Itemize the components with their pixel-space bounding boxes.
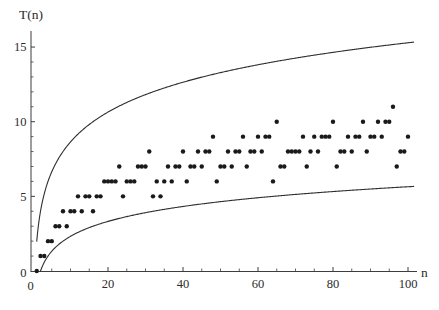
data-point bbox=[263, 134, 267, 138]
data-point bbox=[275, 120, 279, 124]
data-point bbox=[211, 134, 215, 138]
data-point bbox=[267, 134, 271, 138]
data-point bbox=[380, 134, 384, 138]
data-point bbox=[121, 194, 125, 198]
data-point bbox=[372, 134, 376, 138]
data-point bbox=[192, 164, 196, 168]
data-point bbox=[316, 149, 320, 153]
data-point bbox=[357, 134, 361, 138]
data-point bbox=[320, 134, 324, 138]
x-origin-label: 0 bbox=[27, 279, 33, 293]
data-point bbox=[188, 164, 192, 168]
data-point bbox=[91, 209, 95, 213]
data-point bbox=[95, 194, 99, 198]
data-point bbox=[166, 164, 170, 168]
data-point bbox=[248, 149, 252, 153]
data-point bbox=[376, 120, 380, 124]
data-point bbox=[398, 149, 402, 153]
data-point bbox=[222, 164, 226, 168]
data-point bbox=[162, 179, 166, 183]
data-point bbox=[170, 179, 174, 183]
data-point bbox=[226, 149, 230, 153]
data-point bbox=[278, 164, 282, 168]
y-origin-label: 0 bbox=[20, 266, 26, 280]
data-point bbox=[68, 209, 72, 213]
data-point bbox=[406, 134, 410, 138]
data-point bbox=[132, 179, 136, 183]
data-point bbox=[46, 239, 50, 243]
data-point bbox=[308, 149, 312, 153]
data-point bbox=[230, 164, 234, 168]
data-point bbox=[200, 164, 204, 168]
data-point bbox=[83, 194, 87, 198]
data-point bbox=[53, 224, 57, 228]
data-point bbox=[241, 134, 245, 138]
x-tick-label: 60 bbox=[252, 277, 265, 291]
data-point bbox=[72, 209, 76, 213]
data-point bbox=[252, 149, 256, 153]
data-point bbox=[301, 134, 305, 138]
data-point bbox=[215, 179, 219, 183]
data-point bbox=[42, 254, 46, 258]
data-point bbox=[353, 134, 357, 138]
data-point bbox=[350, 149, 354, 153]
data-point bbox=[35, 269, 39, 273]
data-point bbox=[98, 194, 102, 198]
data-point bbox=[245, 164, 249, 168]
data-point bbox=[50, 239, 54, 243]
data-point bbox=[335, 164, 339, 168]
bound-curves bbox=[37, 42, 414, 271]
data-point bbox=[181, 149, 185, 153]
data-point bbox=[76, 194, 80, 198]
data-point bbox=[113, 179, 117, 183]
data-point bbox=[155, 179, 159, 183]
data-point bbox=[185, 179, 189, 183]
data-point bbox=[395, 164, 399, 168]
data-point bbox=[297, 149, 301, 153]
data-point bbox=[106, 179, 110, 183]
data-point bbox=[173, 164, 177, 168]
lower-bound-curve bbox=[41, 186, 414, 271]
data-point bbox=[151, 194, 155, 198]
data-point bbox=[140, 164, 144, 168]
data-point bbox=[158, 194, 162, 198]
data-point bbox=[177, 164, 181, 168]
data-point bbox=[391, 105, 395, 109]
data-point bbox=[147, 149, 151, 153]
data-point bbox=[117, 164, 121, 168]
data-point bbox=[256, 134, 260, 138]
data-point bbox=[203, 149, 207, 153]
data-point bbox=[57, 224, 61, 228]
data-point bbox=[402, 149, 406, 153]
data-point bbox=[237, 149, 241, 153]
data-point bbox=[305, 164, 309, 168]
data-point bbox=[346, 134, 350, 138]
data-point bbox=[196, 149, 200, 153]
scatter-plot: 2040608010051015 T(n) n 0 0 bbox=[0, 0, 439, 310]
y-tick-label: 15 bbox=[14, 40, 27, 54]
data-point bbox=[361, 120, 365, 124]
data-point bbox=[271, 179, 275, 183]
y-tick-label: 10 bbox=[14, 115, 27, 129]
axes: 2040608010051015 bbox=[14, 31, 417, 291]
data-point bbox=[102, 179, 106, 183]
data-point bbox=[143, 164, 147, 168]
data-point bbox=[383, 120, 387, 124]
data-point bbox=[233, 149, 237, 153]
data-point bbox=[38, 254, 42, 258]
x-tick-label: 20 bbox=[102, 277, 115, 291]
data-point bbox=[368, 134, 372, 138]
data-point bbox=[128, 179, 132, 183]
data-points bbox=[35, 105, 411, 274]
data-point bbox=[342, 149, 346, 153]
data-point bbox=[331, 120, 335, 124]
data-point bbox=[338, 149, 342, 153]
data-point bbox=[365, 149, 369, 153]
data-point bbox=[327, 134, 331, 138]
data-point bbox=[323, 134, 327, 138]
data-point bbox=[87, 194, 91, 198]
data-point bbox=[61, 209, 65, 213]
x-tick-label: 80 bbox=[327, 277, 340, 291]
data-point bbox=[110, 179, 114, 183]
data-point bbox=[65, 224, 69, 228]
